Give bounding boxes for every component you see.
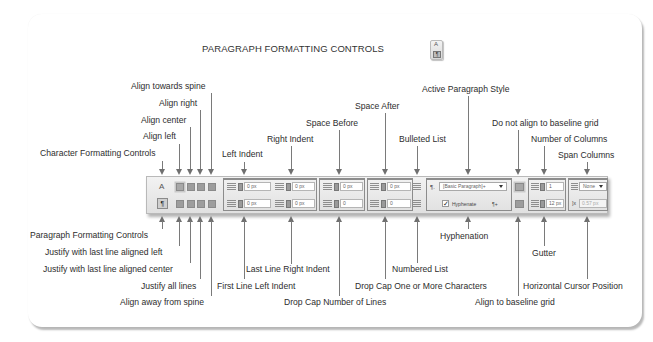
arrow-line [211,93,212,170]
character-mode-button[interactable]: A [159,182,164,191]
right-indent-stepper[interactable] [286,183,291,191]
hyphenate-checkbox[interactable]: ✓ [442,200,449,207]
arrow-down-icon [288,169,294,175]
label-justify-all: Justify all lines [141,281,196,291]
right-indent-icon [275,183,284,191]
paragraph-mode-glyph: ¶ [433,51,441,58]
first-line-indent-stepper[interactable] [238,200,243,208]
arrow-line [544,146,545,170]
last-line-indent-stepper[interactable] [286,200,291,208]
drop-cap-chars-field[interactable]: 0 [387,199,411,208]
align-right-button[interactable] [197,183,205,191]
label-justify-last-center: Justify with last line aligned center [43,264,173,274]
arrow-line [587,221,588,279]
do-not-align-baseline-button[interactable] [515,183,524,191]
space-after-icon [370,183,379,191]
label-numbered-list: Numbered List [392,264,448,274]
gutter-stepper[interactable] [540,200,545,208]
arrow-line [417,146,418,170]
label-space-before: Space Before [306,118,358,128]
last-line-indent-icon [275,200,284,208]
paragraph-style-dropdown[interactable]: [Basic Paragraph]+ [439,182,507,191]
last-line-indent-field[interactable]: 0 px [292,199,315,208]
label-align-center: Align center [141,115,186,125]
space-after-stepper[interactable] [381,183,386,191]
label-align-towards-spine: Align towards spine [131,81,206,91]
arrow-down-icon [515,169,521,175]
arrow-line [162,221,163,229]
arrow-line [190,127,191,170]
paragraph-style-icon: ¶. [430,184,435,190]
label-align-left: Align left [143,131,176,141]
label-span-columns: Span Columns [558,150,614,160]
label-horizontal-cursor: Horizontal Cursor Position [523,281,623,291]
character-mode-glyph: A [434,41,438,47]
arrow-down-icon [541,169,547,175]
label-align-away-spine: Align away from spine [120,297,204,307]
arrow-line [291,221,292,264]
arrow-line [468,221,469,229]
label-gutter: Gutter [532,248,556,258]
label-right-indent: Right Indent [267,134,313,144]
paragraph-style-value: [Basic Paragraph]+ [443,183,486,189]
span-columns-value: None [583,183,595,189]
arrow-line [544,221,545,246]
justify-last-center-button[interactable] [187,200,195,208]
label-first-line-left-indent: First Line Left Indent [217,281,295,291]
span-columns-icon [571,183,578,191]
justify-all-button[interactable] [197,200,205,208]
columns-field[interactable]: 1 [546,182,564,191]
arrow-line [200,221,201,279]
drop-cap-chars-icon [370,200,379,208]
gutter-field[interactable]: 12 px [546,199,564,208]
diagram-title: PARAGRAPH FORMATTING CONTROLS [202,43,384,54]
label-drop-cap-chars: Drop Cap One or More Characters [355,281,487,291]
drop-cap-lines-icon [323,200,332,208]
numbered-list-button[interactable] [413,200,421,208]
align-left-button[interactable] [176,183,184,191]
first-line-indent-field[interactable]: 0 px [244,199,271,208]
label-align-right: Align right [159,98,197,108]
label-do-not-align-baseline: Do not align to baseline grid [492,118,599,128]
align-baseline-button[interactable] [515,200,524,208]
span-columns-dropdown[interactable]: None [579,182,607,191]
space-before-stepper[interactable] [334,183,339,191]
align-away-spine-button[interactable] [208,200,216,208]
arrow-line [468,96,469,170]
space-before-field[interactable]: 0 px [340,182,363,191]
arrow-down-icon [197,169,203,175]
bulleted-list-button[interactable] [413,183,421,191]
paragraph-mode-button[interactable]: ¶ [157,198,168,209]
drop-cap-chars-stepper[interactable] [381,200,386,208]
left-indent-field[interactable]: 0 px [244,182,271,191]
label-paragraph-formatting-controls: Paragraph Formatting Controls [30,230,148,240]
label-space-after: Space After [355,101,399,111]
arrow-line [518,130,519,170]
label-hyphenation: Hyphenation [440,231,488,241]
drop-cap-lines-stepper[interactable] [334,200,339,208]
columns-stepper[interactable] [540,183,545,191]
justify-last-left-button[interactable] [176,200,184,208]
label-justify-last-left: Justify with last line aligned left [45,247,163,257]
label-last-line-right-indent: Last Line Right Indent [246,264,330,274]
arrow-down-icon [336,169,342,175]
left-indent-icon [227,183,236,191]
label-left-indent: Left Indent [222,149,263,159]
space-after-field[interactable]: 0 px [387,182,411,191]
drop-cap-lines-field[interactable]: 0 [340,199,363,208]
left-indent-stepper[interactable] [238,183,243,191]
arrow-line [291,146,292,170]
arrow-down-icon [187,169,193,175]
arrow-down-icon [159,169,165,175]
paragraph-control-panel: A ¶ 0 px 0 px 0 px 0 px 0 px 0 0 px 0 ¶.… [146,176,608,214]
label-character-formatting-controls: Character Formatting Controls [40,148,156,158]
arrow-line [339,130,340,170]
arrow-down-icon [208,169,214,175]
arrow-down-icon [465,169,471,175]
arrow-down-icon [414,169,420,175]
align-towards-spine-button[interactable] [208,183,216,191]
first-line-indent-icon [227,200,236,208]
align-center-button[interactable] [187,183,195,191]
right-indent-field[interactable]: 0 px [292,182,315,191]
clear-overrides-icon[interactable]: ¶+ [492,201,498,207]
